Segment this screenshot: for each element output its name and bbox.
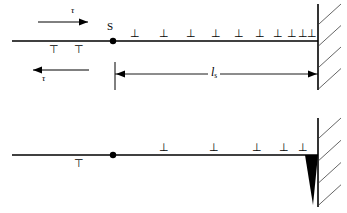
crack-wedge bbox=[305, 155, 318, 205]
dislocation-symbol: ⊥ bbox=[159, 28, 169, 39]
dislocation-symbol: ⊤ bbox=[74, 44, 84, 55]
dimension-arrow-left bbox=[116, 71, 125, 78]
dislocation-pileup-figure: Sττ⊥⊥⊥⊥⊥⊥⊥⊥⊥⊥⊤⊤ls⊥⊥⊥⊥⊥⊤ bbox=[0, 0, 347, 213]
dislocation-symbol: ⊥ bbox=[159, 142, 169, 153]
dimension-arrow-right bbox=[308, 71, 317, 78]
frank-read-source-label: S bbox=[107, 21, 113, 32]
wall-hatch-line bbox=[319, 69, 341, 89]
wall-hatch-line bbox=[319, 47, 341, 67]
dislocation-symbol: ⊤ bbox=[74, 158, 84, 169]
dislocation-symbol: ⊥ bbox=[211, 28, 221, 39]
shear-stress-label-bottom: τ bbox=[42, 74, 45, 83]
dislocation-symbol: ⊥ bbox=[234, 28, 244, 39]
wall-hatch-line bbox=[319, 26, 341, 46]
wall-hatch-line bbox=[319, 4, 341, 24]
shear-stress-arrow-head bbox=[79, 19, 88, 26]
shear-stress-arrow-head bbox=[33, 67, 42, 74]
dislocation-symbol: ⊥ bbox=[287, 28, 297, 39]
wall-hatch-line bbox=[319, 163, 341, 183]
shear-stress-label-top: τ bbox=[71, 6, 74, 15]
dislocation-symbol: ⊥ bbox=[273, 28, 283, 39]
wall-hatch-line bbox=[319, 118, 341, 138]
dislocation-symbol: ⊤ bbox=[49, 44, 59, 55]
dislocation-symbol: ⊥ bbox=[209, 142, 219, 153]
wall-hatch-line bbox=[319, 185, 341, 205]
frank-read-source-dot bbox=[110, 152, 116, 158]
dislocation-symbol: ⊥ bbox=[252, 142, 262, 153]
dislocation-symbol: ⊥ bbox=[307, 28, 317, 39]
wall-hatch-line bbox=[319, 140, 341, 160]
dislocation-symbol: ⊥ bbox=[186, 28, 196, 39]
dislocation-symbol: ⊥ bbox=[279, 142, 289, 153]
pile-up-length-label: ls bbox=[208, 66, 220, 80]
dislocation-symbol: ⊥ bbox=[130, 28, 140, 39]
dislocation-symbol: ⊥ bbox=[298, 142, 308, 153]
frank-read-source-dot bbox=[110, 38, 116, 44]
dislocation-symbol: ⊥ bbox=[255, 28, 265, 39]
